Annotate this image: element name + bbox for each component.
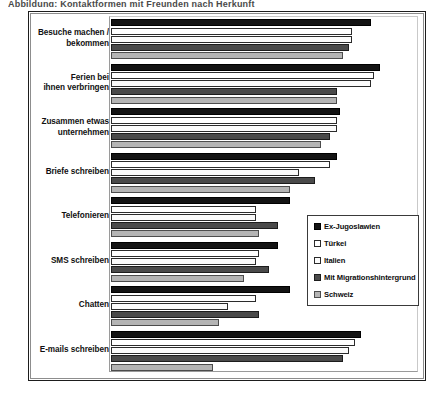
bar — [111, 286, 290, 293]
bar — [111, 169, 299, 176]
legend-label-ex-jugoslawien: Ex-Jugoslawien — [324, 222, 380, 231]
chart-page: Abbildung: Kontaktformen mit Freunden na… — [0, 0, 435, 393]
bar — [111, 319, 219, 326]
bar — [111, 339, 355, 346]
legend-label-mit-migrationshintergrund: Mit Migrationshintergrund — [324, 273, 416, 282]
bar — [111, 364, 213, 371]
bar-group — [110, 106, 417, 151]
bar — [111, 266, 269, 273]
bar — [111, 295, 256, 302]
category-axis-labels: Besuche machen /bekommenFerien beiihnen … — [33, 16, 109, 372]
legend-item: Italien — [314, 256, 413, 265]
bar — [111, 161, 330, 168]
bar — [111, 206, 256, 213]
legend-swatch-schweiz — [314, 291, 321, 298]
category-label: Besuche machen /bekommen — [33, 28, 109, 49]
bar — [111, 125, 337, 132]
legend-label-schweiz: Schweiz — [324, 290, 353, 299]
bar-group — [110, 151, 417, 196]
bar-group — [110, 62, 417, 107]
bar — [111, 97, 337, 104]
legend-item: Türkei — [314, 239, 413, 248]
category-label: Telefonieren — [33, 211, 109, 222]
category-label: Zusammen etwasunternehmen — [33, 117, 109, 138]
bar — [111, 80, 371, 87]
bar — [111, 222, 278, 229]
category-label: SMS schreiben — [33, 256, 109, 267]
legend-swatch-tuerkei — [314, 240, 321, 247]
bar — [111, 153, 337, 160]
bar — [111, 28, 352, 35]
bar — [111, 197, 290, 204]
bar — [111, 275, 244, 282]
bar — [111, 108, 340, 115]
plot-area — [109, 16, 418, 372]
bar — [111, 133, 330, 140]
legend-item: Schweiz — [314, 290, 413, 299]
category-label: Briefe schreiben — [33, 167, 109, 178]
bar-group — [110, 17, 417, 62]
legend-item: Mit Migrationshintergrund — [314, 273, 413, 282]
bar — [111, 186, 290, 193]
legend-item: Ex-Jugoslawien — [314, 222, 413, 231]
bar — [111, 36, 352, 43]
bar-group — [110, 329, 417, 374]
legend-label-tuerkei: Türkei — [324, 239, 346, 248]
bar — [111, 19, 371, 26]
bar — [111, 303, 228, 310]
bar — [111, 311, 259, 318]
clipped-caption-text: Abbildung: Kontaktformen mit Freunden na… — [8, 0, 338, 7]
category-label: E-mails schreiben — [33, 345, 109, 356]
bar — [111, 177, 315, 184]
category-label: Ferien beiihnen verbringen — [33, 72, 109, 93]
bar — [111, 72, 374, 79]
bar — [111, 258, 256, 265]
bar — [111, 250, 259, 257]
bar — [111, 242, 278, 249]
legend-swatch-italien — [314, 257, 321, 264]
bar — [111, 44, 349, 51]
legend-swatch-mit-migrationshintergrund — [314, 274, 321, 281]
bar — [111, 214, 256, 221]
bar — [111, 117, 337, 124]
category-label: Chatten — [33, 300, 109, 311]
bar — [111, 230, 259, 237]
bar — [111, 141, 321, 148]
legend-swatch-ex-jugoslawien — [314, 223, 321, 230]
bar — [111, 347, 349, 354]
bar — [111, 64, 380, 71]
bar — [111, 331, 361, 338]
bar — [111, 355, 343, 362]
bar — [111, 52, 343, 59]
bar — [111, 88, 337, 95]
legend-label-italien: Italien — [324, 256, 345, 265]
chart-legend: Ex-Jugoslawien Türkei Italien Mit Migrat… — [307, 215, 419, 306]
